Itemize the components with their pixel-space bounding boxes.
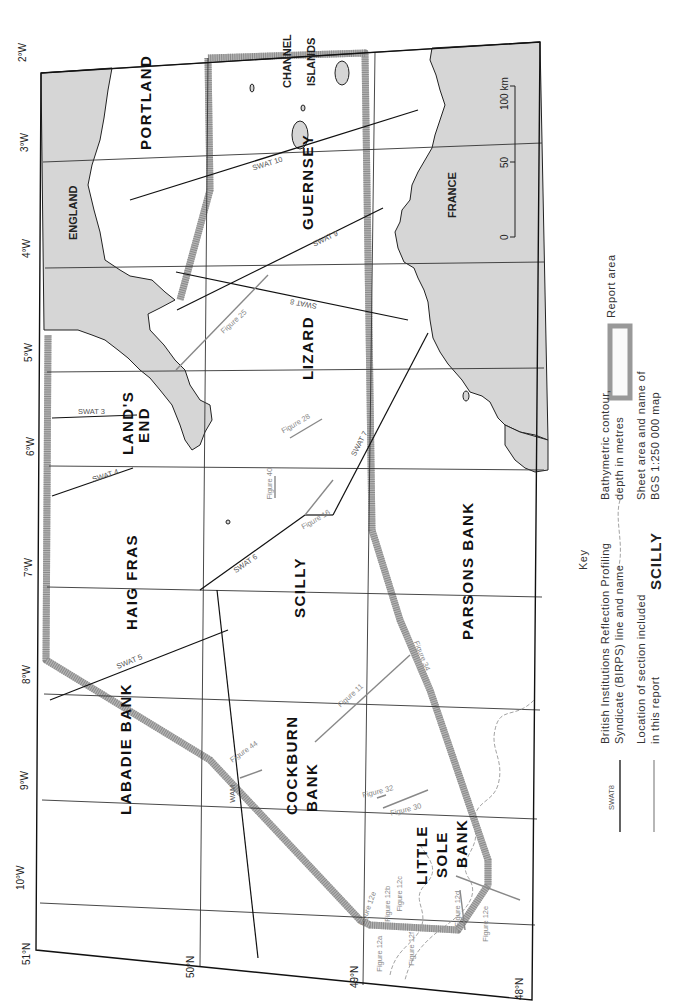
label-figure-12a: Figure 12a (376, 936, 384, 972)
key-birps-1: British Institutions Reflection Profilin… (600, 543, 611, 744)
label-swat-6: SWAT 6 (232, 553, 258, 575)
key-section-1: Location of section included (636, 594, 647, 744)
tick-50n: 50°N (186, 956, 196, 978)
label-swat-9: SWAT 9 (312, 229, 340, 248)
key-title: Key (578, 550, 589, 570)
tick-7w: 7°W (24, 558, 34, 577)
tick-49n: 49°N (350, 966, 360, 988)
key-report-area: Report area (606, 254, 617, 318)
key-section-2: in this report (650, 676, 661, 744)
tick-51n: 51°N (22, 943, 32, 965)
key-swat-sample: SWAT8 (608, 785, 616, 810)
tick-3w: 3°W (20, 133, 30, 152)
scale-50: 50 (500, 157, 510, 168)
sheet-parsons-bank: PARSONS BANK (460, 501, 475, 640)
tick-2w: 2°W (18, 43, 28, 62)
sheet-cockburn-bank: BANK (304, 763, 319, 812)
tick-6w: 6°W (26, 437, 36, 456)
label-layer: 2°W 3°W 4°W 5°W 6°W 7°W 8°W 9°W 10°W 51°… (0, 0, 674, 1006)
label-figure-12e: Figure 12e (482, 906, 490, 942)
label-islands: ISLANDS (306, 38, 317, 86)
label-figure-44: Figure 44 (229, 740, 259, 764)
label-wam: WAM (229, 785, 237, 803)
tick-10w: 10°W (16, 865, 26, 890)
label-figure-32: Figure 32 (362, 784, 395, 799)
key-birps-2: Syndicate (BIRPS) line and name (614, 565, 625, 744)
label-england: ENGLAND (68, 186, 79, 240)
key-sheet-sample: SCILLY (648, 532, 663, 590)
label-figure-30: Figure 12e (358, 891, 377, 927)
key-bathymetric-1: Bathymetric contour, (600, 390, 611, 500)
label-figure-12d: Figure 12d (454, 891, 462, 927)
tick-4w: 4°W (22, 239, 32, 258)
label-swat-8: SWAT 8 (290, 297, 318, 310)
label-figure-27: Figure 30 (390, 802, 423, 817)
label-figure-11: Figure 11 (336, 683, 364, 709)
label-figure-12b: Figure 12b (384, 886, 392, 922)
scale-0: 0 (500, 234, 510, 240)
label-swat-7: SWAT 7 (350, 430, 369, 457)
label-figure-28: Figure 28 (280, 413, 311, 435)
sheet-little-sole-bank: BANK (454, 819, 469, 868)
tick-9w: 9°W (20, 771, 30, 790)
sheet-scilly: SCILLY (292, 557, 307, 618)
scale-100km: 100 km (500, 77, 510, 110)
key-sheet-2: BGS 1:250 000 map (650, 392, 661, 500)
tick-5w: 5°W (24, 343, 34, 362)
sheet-cockburn: COCKBURN (284, 716, 299, 816)
label-figure-25: Figure 25 (220, 308, 249, 335)
key-bathymetric-2: depth in metres (614, 417, 625, 500)
sheet-little: LITTLE (414, 825, 429, 885)
sheet-haig-fras: HAIG FRAS (124, 534, 139, 630)
label-figure-12c: Figure 12c (396, 876, 404, 911)
sheet-end: END (136, 407, 151, 443)
label-figure-12f: Figure 12f (408, 932, 416, 966)
label-france: FRANCE (447, 172, 458, 218)
label-swat-3: SWAT 3 (78, 408, 105, 416)
sheet-portland: PORTLAND (138, 55, 153, 150)
label-swat-4: SWAT 4 (92, 468, 120, 483)
label-figure-40: Figure 40 (266, 468, 274, 500)
tick-8w: 8°W (22, 665, 32, 684)
label-swat-5: SWAT 5 (116, 653, 144, 670)
sheet-labadie-bank: LABADIE BANK (118, 683, 133, 815)
label-figure-16: Figure 16 (300, 509, 331, 531)
sheet-lizard: LIZARD (300, 316, 315, 380)
key-sheet-1: Sheet area and name of (636, 371, 647, 500)
label-figure-34: Figure 34 (412, 640, 431, 672)
sheet-lands: LAND'S (120, 391, 135, 455)
label-channel: CHANNEL (282, 34, 293, 88)
label-swat-10: SWAT 10 (252, 156, 284, 172)
sheet-guernsey: GUERNSEY (300, 134, 315, 230)
sheet-sole: SOLE (434, 831, 449, 878)
tick-48n: 48°N (515, 978, 525, 1000)
